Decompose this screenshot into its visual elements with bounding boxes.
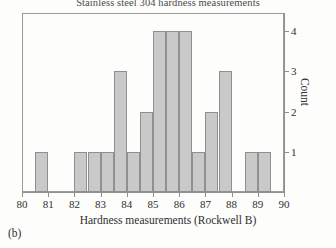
x-axis-tick: [74, 192, 75, 197]
y-axis-tick-label: 1: [291, 145, 305, 159]
y-axis-tick: [284, 71, 289, 72]
histogram-bar: [205, 112, 218, 192]
histogram-bar: [88, 152, 101, 192]
y-axis-tick-label: 2: [291, 105, 305, 119]
histogram-bar: [219, 71, 232, 192]
histogram-bar: [35, 152, 48, 192]
x-axis-tick: [22, 192, 23, 197]
histogram-bar: [245, 152, 258, 192]
histogram-bar: [153, 31, 166, 192]
chart-title: Stainless steel 304 hardness measurement…: [0, 0, 336, 8]
histogram-bar: [74, 152, 87, 192]
histogram-bar: [127, 152, 140, 192]
histogram-bar: [114, 71, 127, 192]
y-axis-tick: [284, 112, 289, 113]
x-axis-tick: [127, 192, 128, 197]
y-axis-tick: [284, 31, 289, 32]
x-axis-tick: [48, 192, 49, 197]
x-axis-title: Hardness measurements (Rockwell B): [0, 214, 336, 226]
histogram-bar: [258, 152, 271, 192]
x-axis-tick: [232, 192, 233, 197]
histogram-bar: [101, 152, 114, 192]
bars-layer: [22, 13, 284, 192]
y-axis-line: [284, 13, 285, 193]
y-axis-tick-label: 3: [291, 64, 305, 78]
x-axis-tick: [205, 192, 206, 197]
y-axis-tick: [284, 152, 289, 153]
x-axis-tick: [179, 192, 180, 197]
x-axis-tick-label: 90: [269, 198, 299, 210]
histogram-figure: Stainless steel 304 hardness measurement…: [0, 0, 336, 248]
x-axis-tick: [258, 192, 259, 197]
y-axis-title: Count: [299, 78, 311, 106]
histogram-bar: [192, 152, 205, 192]
panel-label: (b): [8, 227, 21, 239]
y-axis-tick-label: 4: [291, 24, 305, 38]
x-axis-tick: [153, 192, 154, 197]
histogram-bar: [166, 31, 179, 192]
histogram-bar: [140, 112, 153, 192]
histogram-bar: [179, 31, 192, 192]
x-axis-tick: [101, 192, 102, 197]
